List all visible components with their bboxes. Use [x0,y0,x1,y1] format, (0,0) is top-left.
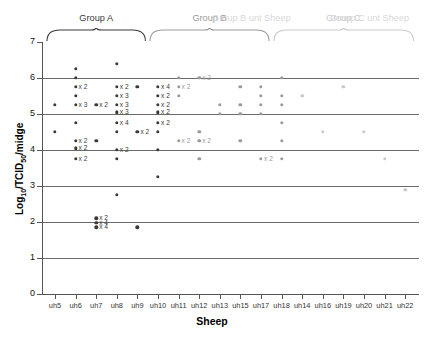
data-point [115,85,118,88]
multiplicity-label: x 3 [120,101,129,108]
data-point [156,121,159,124]
data-point [74,157,77,160]
y-tick [37,222,42,223]
data-point [74,76,77,79]
plot-area: 01234567uh5uh6uh7uh8uh9uh10uh11uh12uh13u… [0,0,424,338]
data-point [197,139,200,142]
data-point [136,85,139,88]
data-point [383,157,386,160]
data-point [53,103,56,106]
data-point [177,139,180,142]
multiplicity-label: x 4 [99,224,108,231]
data-point [115,193,118,196]
data-point [115,94,118,97]
data-point [259,103,262,106]
data-point [300,94,303,97]
group-brace [149,28,270,42]
data-point [115,148,118,151]
multiplicity-label: x 3 [120,92,129,99]
data-point [280,121,283,124]
data-point [259,157,262,160]
gridline [42,186,419,187]
multiplicity-label: x 3 [120,109,129,116]
multiplicity-label: x 2 [120,146,129,153]
data-point [74,67,77,70]
data-point [280,157,283,160]
x-tick [96,294,97,299]
data-point [197,157,200,160]
x-tick [199,294,200,299]
multiplicity-label: x 2 [161,119,170,126]
data-point [136,226,139,229]
x-tick [240,294,241,299]
y-tick-label: 2 [19,216,35,226]
multiplicity-label: x 4 [161,83,170,90]
data-point [115,130,118,133]
gridline [42,150,419,151]
data-point [321,130,324,133]
x-tick [55,294,56,299]
data-point [259,94,262,97]
multiplicity-label: x 2 [99,101,108,108]
ghost-text: Group B unt Sheep [212,13,291,23]
y-tick-label: 0 [19,288,35,298]
x-tick [220,294,221,299]
gridline [42,114,419,115]
multiplicity-label: x 2 [202,137,211,144]
data-point [342,85,345,88]
multiplicity-label: x 2 [79,83,88,90]
multiplicity-label: x 2 [182,137,191,144]
data-point [259,85,262,88]
data-point [94,221,97,224]
y-tick [37,150,42,151]
multiplicity-label: x 2 [79,145,88,152]
y-axis-title: Log10/TCID50/midge [14,123,27,215]
data-point [74,139,77,142]
data-point [156,94,159,97]
gridline [42,78,419,79]
y-tick [37,294,42,295]
multiplicity-label: x 2 [140,128,149,135]
data-point [177,85,180,88]
x-tick [343,294,344,299]
x-axis-title: Sheep [0,315,424,327]
data-point [197,130,200,133]
data-point [94,226,97,229]
data-point [136,130,139,133]
data-point [403,188,406,191]
data-point [239,112,242,115]
data-point [115,103,118,106]
multiplicity-label: x 2 [161,109,170,116]
group-brace [273,28,415,42]
data-point [280,139,283,142]
x-tick [364,294,365,299]
data-point [74,85,77,88]
x-tick-label: uh22 [390,301,420,310]
x-tick [323,294,324,299]
data-point [94,139,97,142]
data-point [280,94,283,97]
y-tick [37,78,42,79]
x-tick [385,294,386,299]
y-tick-label: 7 [19,36,35,46]
data-point [239,139,242,142]
scatter-chart: 01234567uh5uh6uh7uh8uh9uh10uh11uh12uh13u… [0,0,424,338]
x-tick [179,294,180,299]
y-tick-label: 1 [19,252,35,262]
data-point [177,94,180,97]
x-tick [117,294,118,299]
multiplicity-label: x 2 [79,137,88,144]
multiplicity-label: x 2 [182,83,191,90]
data-point [115,121,118,124]
data-point [156,85,159,88]
data-point [156,103,159,106]
data-point [280,76,283,79]
x-axis [42,294,419,295]
data-point [156,130,159,133]
multiplicity-label: x 2 [264,155,273,162]
data-point [74,103,77,106]
data-point [53,130,56,133]
y-tick-label: 5 [19,108,35,118]
x-tick [137,294,138,299]
ghost-text: Group C unt Sheep [330,13,409,23]
